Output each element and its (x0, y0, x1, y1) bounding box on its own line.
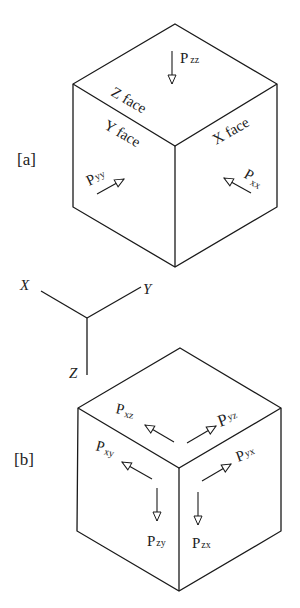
pxx-label: Pxx (241, 166, 267, 191)
stress-diagram: [a] Z face Y face X face Pzz Pyy Pxx X Y… (0, 0, 300, 608)
pyy-label: Pyy (84, 166, 108, 189)
x-face-label: X face (210, 114, 253, 148)
x-axis-label: X (19, 277, 30, 293)
cube-b (77, 348, 281, 591)
pxy-label: Pxy (94, 437, 117, 458)
pzz-label: Pzz (180, 50, 200, 66)
pyz-label: Pyz (215, 406, 241, 431)
pyy-arrow-icon (97, 179, 124, 194)
pzx-label: Pzx (192, 535, 211, 551)
cube-a (73, 24, 277, 267)
y-face-label: Y face (102, 117, 144, 151)
pxz-arrow-icon (145, 425, 174, 442)
pyx-label: Pyx (234, 443, 258, 465)
pxy-arrow-icon (122, 462, 152, 479)
pxz-label: Pxz (114, 400, 136, 421)
y-axis-line (87, 287, 141, 318)
pyx-arrow-icon (202, 464, 231, 481)
x-axis-line (41, 291, 87, 318)
cube-a-top-edges (73, 84, 277, 146)
cube-b-top-edges (78, 408, 281, 468)
z-axis-label: Z (69, 365, 78, 381)
y-axis-label: Y (143, 281, 153, 297)
z-face-label: Z face (109, 84, 150, 117)
panel-a-tag: [a] (17, 150, 36, 169)
axis-triad: X Y Z (19, 277, 153, 381)
pyz-arrow-icon (187, 426, 216, 443)
pzy-label: Pzy (147, 533, 166, 549)
panel-b-tag: [b] (14, 450, 34, 469)
